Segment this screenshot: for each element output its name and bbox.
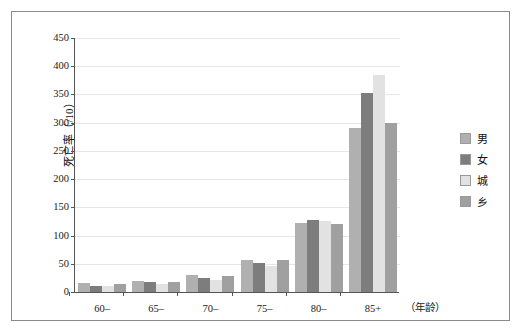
legend-item[interactable]: 女 bbox=[460, 154, 488, 165]
x-tick-label: 80– bbox=[289, 303, 349, 314]
legend-item[interactable]: 乡 bbox=[460, 196, 488, 207]
legend-swatch-icon bbox=[460, 154, 471, 165]
bar bbox=[349, 128, 361, 292]
bar-groups: 60–65–70–75–80–85+ bbox=[75, 38, 400, 292]
bar bbox=[277, 260, 289, 292]
plot-area: 死亡率（/10） 450400350300250200150100500 60–… bbox=[74, 38, 399, 293]
bar bbox=[210, 280, 222, 292]
bar bbox=[198, 278, 210, 292]
bar bbox=[361, 93, 373, 292]
y-tick-label: 450 bbox=[35, 33, 69, 43]
y-tick-label: 150 bbox=[35, 202, 69, 212]
y-tick-label: 250 bbox=[35, 146, 69, 156]
bar-group: 80– bbox=[295, 38, 343, 292]
bar-group: 75– bbox=[241, 38, 289, 292]
bar bbox=[114, 284, 126, 292]
y-tick-label: 400 bbox=[35, 61, 69, 71]
legend-item[interactable]: 城 bbox=[460, 175, 488, 186]
legend-item[interactable]: 男 bbox=[460, 133, 488, 144]
legend-swatch-icon bbox=[460, 196, 471, 207]
legend-swatch-icon bbox=[460, 133, 471, 144]
y-tick-label: 350 bbox=[35, 89, 69, 99]
x-tick-mark bbox=[340, 292, 341, 296]
x-tick-label: 75– bbox=[235, 303, 295, 314]
bar bbox=[295, 223, 307, 292]
bar bbox=[241, 260, 253, 292]
bar bbox=[373, 75, 385, 292]
bar-group: 70– bbox=[186, 38, 234, 292]
x-tick-label: 70– bbox=[180, 303, 240, 314]
bar bbox=[331, 224, 343, 292]
y-tick-label: 0 bbox=[35, 287, 69, 297]
bar bbox=[222, 276, 234, 292]
bar bbox=[307, 220, 319, 292]
x-tick-mark bbox=[232, 292, 233, 296]
bar bbox=[385, 123, 397, 292]
bar bbox=[156, 284, 168, 292]
bar bbox=[186, 275, 198, 292]
bar bbox=[168, 282, 180, 292]
legend-label: 男 bbox=[477, 134, 488, 144]
y-tick-label: 200 bbox=[35, 174, 69, 184]
bar bbox=[132, 281, 144, 292]
bar bbox=[144, 282, 156, 292]
x-axis-title: （年龄） bbox=[405, 299, 445, 314]
y-tick-label: 300 bbox=[35, 118, 69, 128]
bar bbox=[265, 266, 277, 292]
bar-group: 65– bbox=[132, 38, 180, 292]
bar bbox=[319, 221, 331, 292]
y-tick-mark bbox=[71, 292, 75, 293]
chart-legend: 男女城乡 bbox=[460, 133, 488, 207]
x-tick-mark bbox=[123, 292, 124, 296]
bar bbox=[102, 286, 114, 292]
bar bbox=[253, 263, 265, 292]
x-tick-mark bbox=[286, 292, 287, 296]
y-axis-title: 死亡率（/10） bbox=[60, 87, 76, 177]
x-tick-label: 60– bbox=[72, 303, 132, 314]
x-tick-mark bbox=[177, 292, 178, 296]
chart-frame: 死亡率（/10） 450400350300250200150100500 60–… bbox=[11, 11, 510, 321]
legend-swatch-icon bbox=[460, 175, 471, 186]
legend-label: 女 bbox=[477, 155, 488, 165]
bar-group: 85+ bbox=[349, 38, 397, 292]
x-tick-label: 65– bbox=[126, 303, 186, 314]
bar bbox=[90, 286, 102, 292]
legend-label: 城 bbox=[477, 176, 488, 186]
legend-label: 乡 bbox=[477, 197, 488, 207]
bar-group: 60– bbox=[78, 38, 126, 292]
y-tick-label: 50 bbox=[35, 259, 69, 269]
x-tick-mark bbox=[69, 292, 70, 296]
y-tick-label: 100 bbox=[35, 231, 69, 241]
bar bbox=[78, 283, 90, 292]
x-tick-label: 85+ bbox=[343, 303, 403, 314]
